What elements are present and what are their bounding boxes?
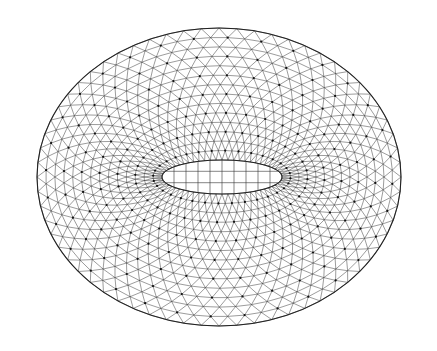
mesh-diagram — [0, 0, 437, 351]
inner-structured-grid — [165, 160, 278, 194]
mesh-svg — [0, 0, 437, 351]
mesh-edges — [37, 28, 401, 326]
outer-boundary — [37, 28, 401, 326]
